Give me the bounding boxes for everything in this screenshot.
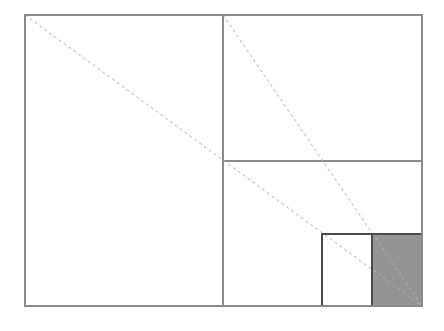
rectangle-subdivision-diagram [0, 0, 444, 331]
unshaded-square [322, 234, 372, 306]
diagram-canvas [0, 0, 444, 331]
